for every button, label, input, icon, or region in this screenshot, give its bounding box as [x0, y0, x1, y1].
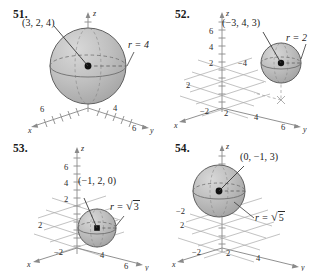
extra-tick-neg4-label-52: −4 [238, 58, 248, 68]
sqrt-icon-54: √ [271, 210, 278, 224]
y-tick-2-label-52: 2 [224, 108, 228, 118]
x-tick-6-label-51: 6 [40, 104, 44, 114]
y-tick-6-label-51: 6 [132, 123, 136, 133]
x-tick-2-label-53: 2 [38, 220, 42, 230]
x-axis-label-53: x [26, 260, 31, 269]
radius-label-prefix-53: r = [110, 201, 126, 212]
extra-tick-2-label-54: 2 [180, 220, 184, 230]
z-tick-2-label-52: 2 [209, 58, 213, 68]
radius-leader-line-51 [127, 52, 134, 66]
y-axis-54 [222, 248, 299, 268]
x-tick-neg2-label-54: −2 [192, 247, 201, 257]
x-tick-neg2-label-53: −2 [54, 247, 63, 257]
figure-sheet: 51. [0, 0, 324, 271]
y-tick-4-label-54: 4 [256, 253, 261, 263]
y-axis-53 [77, 248, 143, 266]
z-axis-53 [74, 147, 81, 254]
sqrt-group-54: √5 [271, 210, 285, 225]
x-axis-label-54: x [171, 260, 176, 269]
radius-radicand-53: 3 [133, 200, 140, 212]
y-axis-52 [222, 108, 301, 129]
center-coordinate-label-53: (−1, 2, 0) [78, 175, 116, 186]
center-coordinate-label-52: (−3, 4, 3) [222, 17, 260, 28]
y-tick-2-label-54: 2 [226, 248, 230, 258]
z-tick-4-label-53: 4 [64, 178, 69, 188]
radius-leader-line-53 [116, 216, 124, 226]
y-axis-label-54: y [300, 263, 305, 271]
center-coordinate-label-51: (3, 2, 4) [22, 17, 55, 28]
z-axis-label-51: z [92, 9, 97, 18]
center-coordinate-label-54: (0, −1, 3) [240, 151, 278, 162]
figure-panel-53: 53. [0, 136, 162, 271]
radius-label-52: r = 2 [286, 32, 307, 43]
y-tick-6-label-52: 6 [281, 122, 285, 132]
radius-leader-line-52 [301, 44, 306, 59]
y-axis-label-51: y [149, 126, 154, 135]
figure-panel-51: 51. [0, 0, 162, 135]
sqrt-group-53: √3 [126, 199, 140, 214]
y-tick-4-label-51: 4 [113, 103, 118, 113]
extra-tick-neg2-label-54: −2 [176, 206, 185, 216]
figure-panel-52: 52. [162, 0, 324, 135]
sqrt-icon-53: √ [126, 199, 133, 213]
z-tick-6-label-52: 6 [209, 26, 213, 36]
y-tick-6-label-53: 6 [124, 261, 128, 271]
x-axis-label-52: x [173, 121, 178, 130]
figure-panel-54: 54. z [162, 136, 324, 271]
y-axis-51 [88, 108, 149, 129]
y-axis-label-53: y [144, 263, 149, 271]
z-tick-4-label-52: 4 [209, 42, 214, 52]
z-axis-label-54: z [225, 142, 230, 151]
radius-label-51: r = 4 [128, 39, 149, 50]
z-tick-6-label-53: 6 [64, 162, 68, 172]
radius-label-prefix-54: r = [255, 212, 271, 223]
y-axis-label-52: y [302, 125, 307, 134]
radius-label-54: r = √5 [255, 210, 285, 225]
radius-radicand-54: 5 [278, 211, 285, 223]
x-tick-2-label-52: 2 [186, 80, 190, 90]
radius-label-53: r = √3 [110, 199, 140, 214]
x-tick-neg2-label-52: −2 [200, 106, 209, 116]
z-axis-label-53: z [80, 144, 85, 153]
x-axis-label-51: x [27, 126, 32, 135]
